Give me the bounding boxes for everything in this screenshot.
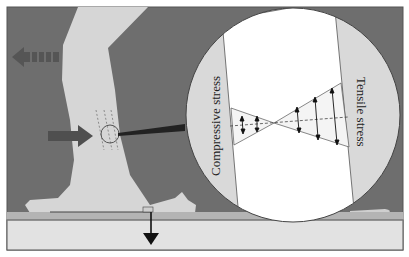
compressive-stress-label: Compressive stress [208,76,223,176]
tensile-stress-label: Tensile stress [354,77,369,147]
ground-strip [7,212,403,220]
bone-stress-diagram: Compressive stress Tensile stress [0,0,409,257]
ground [7,220,403,250]
